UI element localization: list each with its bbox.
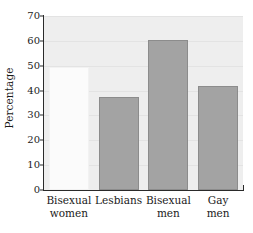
y-axis-tick-label: 40	[27, 86, 40, 96]
y-axis-tick-labels: 010203040506070	[18, 0, 44, 195]
bar-chart-figure: Percentage 010203040506070 Bisexualwomen…	[0, 0, 253, 233]
x-axis-label-lesbians: Lesbians	[94, 194, 144, 207]
bar-bisexual-men	[148, 40, 188, 190]
bar-lesbians	[99, 97, 139, 190]
y-axis-line	[43, 15, 44, 191]
gridline	[44, 16, 243, 17]
y-axis-tick-label: 70	[27, 11, 40, 21]
bar-bisexual-women	[49, 67, 89, 190]
plot-area	[44, 16, 243, 190]
bar-gay-men	[198, 86, 238, 190]
x-axis-line	[43, 190, 244, 191]
x-axis-category-labels: BisexualwomenLesbiansBisexualmenGaymen	[44, 194, 243, 233]
y-axis-tick-label: 50	[27, 61, 40, 71]
x-axis-label-bisexual-men: Bisexualmen	[144, 194, 194, 219]
y-axis-title: Percentage	[3, 67, 15, 128]
gridline	[44, 41, 243, 42]
y-axis-tick-label: 60	[27, 36, 40, 46]
y-axis-title-container: Percentage	[0, 0, 18, 195]
x-axis-label-gay-men: Gaymen	[193, 194, 243, 219]
y-axis-tick-label: 10	[27, 160, 40, 170]
x-axis-label-bisexual-women: Bisexualwomen	[44, 194, 94, 219]
x-axis-end-tick	[243, 185, 244, 191]
y-axis-tick-label: 20	[27, 135, 40, 145]
y-axis-tick-label: 30	[27, 110, 40, 120]
